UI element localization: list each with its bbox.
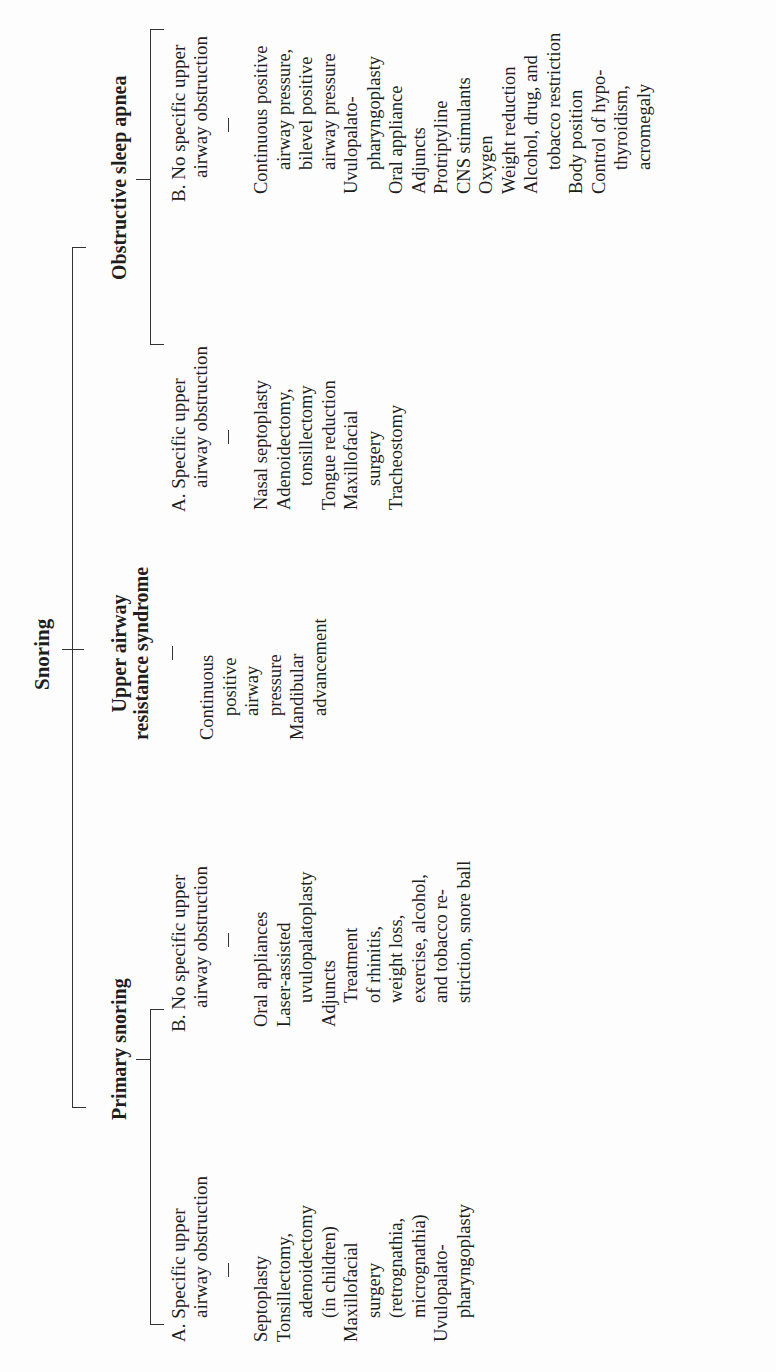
- treatment-item: pressure: [264, 618, 287, 740]
- label-line: airway obstruction: [190, 346, 212, 512]
- treatment-item: thyroidism,: [610, 33, 633, 194]
- label-line: Upper airway: [108, 567, 130, 740]
- treatment-item: Weight reduction: [498, 33, 521, 194]
- primary-sub-bar: [150, 1010, 151, 1325]
- primary-a-connector: [228, 1263, 229, 1277]
- treatment-item: and tobacco re-: [430, 861, 453, 1027]
- treatment-item: positive: [219, 618, 242, 740]
- treatment-item: airway pressure,: [273, 33, 296, 194]
- label-line: B. No specific upper: [168, 36, 190, 202]
- treatment-item: bilevel positive: [295, 33, 318, 194]
- branch-upper-airway-resistance: Upper airway resistance syndrome: [108, 567, 152, 740]
- primary-tick-a: [150, 1324, 164, 1325]
- treatment-item: Alcohol, drug, and: [520, 33, 543, 194]
- treatment-item: Protriptyline: [430, 33, 453, 194]
- label-line: airway obstruction: [190, 866, 212, 1032]
- primary-subgroup-b-label: B. No specific upper airway obstruction: [168, 866, 212, 1032]
- osa-sub-bar: [150, 30, 151, 345]
- primary-b-treatments: Oral appliancesLaser-assisteduvulopalato…: [250, 861, 475, 1027]
- treatment-item: (retrognathia,: [385, 1204, 408, 1342]
- label-line: A. Specific upper: [168, 346, 190, 512]
- treatment-item: Maxillofacial: [340, 380, 363, 510]
- osa-b-connector: [228, 118, 229, 132]
- treatment-item: Tonsillectomy,: [273, 1204, 296, 1342]
- treatment-item: weight loss,: [385, 861, 408, 1027]
- osa-connector: [136, 179, 150, 180]
- treatment-item: Adjuncts: [318, 861, 341, 1027]
- treatment-item: Uvulopalato-: [430, 1204, 453, 1342]
- treatment-item: pharyngoplasty: [363, 33, 386, 194]
- treatment-item: Nasal septoplasty: [250, 380, 273, 510]
- primary-tick-b: [150, 1009, 164, 1010]
- root-label: Snoring: [30, 619, 55, 690]
- label-line: B. No specific upper: [168, 866, 190, 1032]
- treatment-item: Mandibular: [286, 618, 309, 740]
- treatment-item: surgery: [363, 380, 386, 510]
- osa-tick-b: [150, 29, 164, 30]
- treatment-item: Body position: [565, 33, 588, 194]
- treatment-item: Oral appliance: [385, 33, 408, 194]
- label-line: airway obstruction: [190, 1176, 212, 1342]
- primary-connector: [136, 1059, 150, 1060]
- primary-a-treatments: SeptoplastyTonsillectomy,adenoidectomy(i…: [250, 1204, 475, 1342]
- treatment-item: (in children): [318, 1204, 341, 1342]
- treatment-item: of rhinitis,: [363, 861, 386, 1027]
- treatment-item: striction, snore ball: [453, 861, 476, 1027]
- label-line: A. Specific upper: [168, 1176, 190, 1342]
- treatment-item: adenoidectomy: [295, 1204, 318, 1342]
- primary-subgroup-a-label: A. Specific upper airway obstruction: [168, 1176, 212, 1342]
- label-line: airway obstruction: [190, 36, 212, 202]
- osa-a-treatments: Nasal septoplastyAdenoidectomy,tonsillec…: [250, 380, 408, 510]
- main-branch-bar: [72, 248, 73, 1108]
- treatment-item: Oral appliances: [250, 861, 273, 1027]
- treatment-item: Control of hypo-: [588, 33, 611, 194]
- treatment-item: acromegaly: [633, 33, 656, 194]
- primary-b-connector: [228, 933, 229, 947]
- treatment-item: airway pressure: [318, 33, 341, 194]
- snoring-treatment-tree: Snoring Primary snoring A. Specific uppe…: [0, 0, 776, 1372]
- branch-obstructive-sleep-apnea: Obstructive sleep apnea: [108, 76, 130, 280]
- treatment-item: Tracheostomy: [385, 380, 408, 510]
- treatment-item: exercise, alcohol,: [408, 861, 431, 1027]
- uars-treatments: ContinuouspositiveairwaypressureMandibul…: [196, 618, 331, 740]
- treatment-item: tonsillectomy: [295, 380, 318, 510]
- osa-subgroup-a-label: A. Specific upper airway obstruction: [168, 346, 212, 512]
- osa-a-connector: [228, 430, 229, 444]
- treatment-item: CNS stimulants: [453, 33, 476, 194]
- osa-tick-a: [150, 344, 164, 345]
- treatment-item: tobacco restriction: [543, 33, 566, 194]
- treatment-item: Maxillofacial: [340, 1204, 363, 1342]
- treatment-item: surgery: [363, 1204, 386, 1342]
- uars-connector: [172, 646, 173, 660]
- osa-b-treatments: Continuous positiveairway pressure,bilev…: [250, 33, 655, 194]
- treatment-item: Oxygen: [475, 33, 498, 194]
- treatment-item: Treatment: [340, 861, 363, 1027]
- treatment-item: Continuous positive: [250, 33, 273, 194]
- treatment-item: Laser-assisted: [273, 861, 296, 1027]
- treatment-item: Adenoidectomy,: [273, 380, 296, 510]
- treatment-item: advancement: [309, 618, 332, 740]
- treatment-item: micrognathia): [408, 1204, 431, 1342]
- treatment-item: Tongue reduction: [318, 380, 341, 510]
- osa-subgroup-b-label: B. No specific upper airway obstruction: [168, 36, 212, 202]
- treatment-item: airway: [241, 618, 264, 740]
- branch-tick-osa: [72, 247, 86, 248]
- treatment-item: Septoplasty: [250, 1204, 273, 1342]
- treatment-item: Uvulopalato-: [340, 33, 363, 194]
- label-line: resistance syndrome: [130, 567, 152, 740]
- treatment-item: Continuous: [196, 618, 219, 740]
- treatment-item: pharyngoplasty: [453, 1204, 476, 1342]
- treatment-item: uvulopalatoplasty: [295, 861, 318, 1027]
- branch-tick-primary: [72, 1107, 86, 1108]
- branch-primary-snoring: Primary snoring: [108, 978, 130, 1120]
- treatment-item: Adjuncts: [408, 33, 431, 194]
